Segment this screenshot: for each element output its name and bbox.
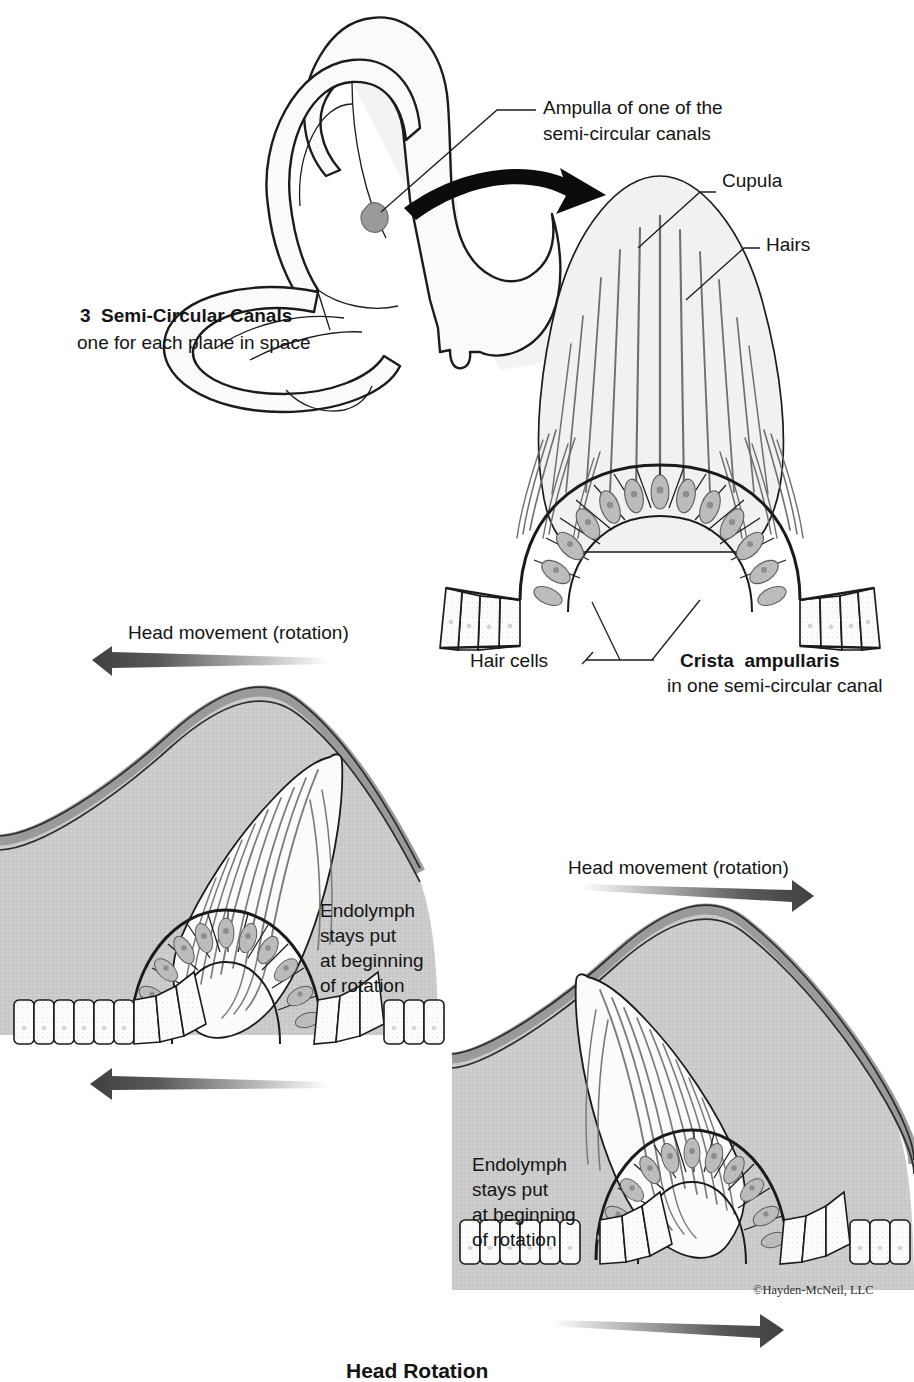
head-movement-label-left: Head movement (rotation) — [128, 620, 349, 645]
head-movement-arrow-left — [92, 646, 330, 676]
ampulla-callout-line2: semi-circular canals — [543, 121, 711, 146]
head-rotation-arrow-bottom — [552, 1314, 784, 1348]
label-cupula: Cupula — [722, 168, 782, 193]
endolymph-right-line-2: stays put — [472, 1177, 576, 1202]
endolymph-line-2: stays put — [320, 923, 424, 948]
endolymph-right-line-4: of rotation — [472, 1227, 576, 1252]
endolymph-line-4: of rotation — [320, 973, 424, 998]
endolymph-arrow-left — [90, 1068, 330, 1100]
label-hair-cells: Hair cells — [470, 648, 548, 673]
canals-caption-title: 3 Semi-Circular Canals — [80, 303, 292, 328]
canals-caption-subtitle: one for each plane in space — [77, 330, 310, 355]
head-movement-label-right: Head movement (rotation) — [568, 855, 789, 880]
crista-caption-title: Crista ampullaris — [680, 648, 839, 673]
endolymph-right-line-3: at beginning — [472, 1202, 576, 1227]
label-hairs: Hairs — [766, 232, 810, 257]
endolymph-annotation-left: Endolymph stays put at beginning of rota… — [320, 898, 424, 998]
endolymph-annotation-right: Endolymph stays put at beginning of rota… — [472, 1152, 576, 1252]
crista-caption-subtitle: in one semi-circular canal — [667, 673, 882, 698]
ampulla-callout-line1: Ampulla of one of the — [543, 95, 723, 120]
endolymph-line-1: Endolymph — [320, 898, 424, 923]
endolymph-line-3: at beginning — [320, 948, 424, 973]
endolymph-right-line-1: Endolymph — [472, 1152, 576, 1177]
copyright-notice: ©Hayden-McNeil, LLC — [753, 1283, 874, 1298]
crista-ampullaris-drawing — [440, 176, 880, 658]
head-rotation-caption: Head Rotation — [346, 1358, 488, 1382]
